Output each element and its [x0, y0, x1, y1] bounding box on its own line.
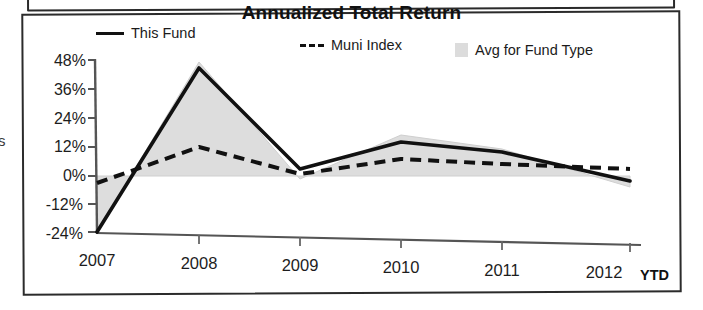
- area-swatch-icon: [455, 43, 468, 57]
- clipped-edge-text: s: [0, 132, 10, 149]
- legend-item-muni-index: Muni Index: [300, 37, 402, 53]
- solid-line-swatch-icon: [96, 32, 124, 35]
- dashed-line-swatch-icon: [300, 44, 324, 47]
- y-axis-tick-label: 12%: [30, 139, 86, 155]
- y-axis-tick-label: 36%: [30, 82, 86, 98]
- x-axis-tick-label: 2009: [265, 257, 335, 274]
- x-axis-tick-label: 2007: [62, 252, 132, 269]
- legend-label-muni-index: Muni Index: [331, 37, 402, 53]
- legend-label-this-fund: This Fund: [131, 25, 195, 41]
- chart-title: Annualized Total Return: [0, 2, 703, 24]
- x-axis-tick-label: 2010: [366, 259, 436, 276]
- x-axis-tick-label: 2008: [164, 255, 234, 272]
- legend-label-avg-for-fund-type: Avg for Fund Type: [475, 42, 593, 58]
- y-axis-tick-label: -24%: [27, 226, 83, 242]
- y-axis-tick-label: 24%: [30, 111, 86, 127]
- legend-item-this-fund: This Fund: [96, 25, 195, 41]
- y-axis-tick-label: 48%: [30, 53, 86, 69]
- x-axis-ytd-label: YTD: [640, 268, 669, 283]
- x-axis-tick-label: 2012: [569, 264, 639, 281]
- x-axis-tick-label: 2011: [467, 262, 537, 279]
- y-axis-tick-label: -12%: [27, 197, 83, 213]
- legend-item-avg-for-fund-type: Avg for Fund Type: [455, 42, 593, 58]
- chart-screenshot: s Annualized Total Return This Fund Muni…: [0, 0, 703, 310]
- y-axis-tick-label: 0%: [30, 168, 86, 184]
